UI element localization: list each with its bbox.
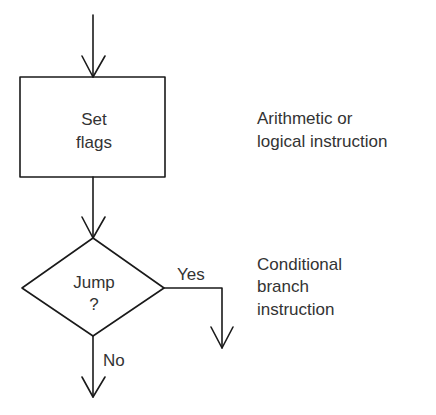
annotation-conditional-line1: Conditional <box>257 255 342 274</box>
annotation-arithmetic-line1: Arithmetic or <box>257 109 353 128</box>
yes-branch-line <box>164 288 222 348</box>
annotation-arithmetic-line2: logical instruction <box>257 132 387 151</box>
set-flags-label-line1: Set <box>81 110 107 129</box>
jump-label-line2: ? <box>89 295 98 314</box>
annotation-conditional-line3: instruction <box>257 300 334 319</box>
set-flags-label-line2: flags <box>76 133 112 152</box>
no-edge-label: No <box>103 351 125 370</box>
annotation-conditional-line2: branch <box>257 277 309 296</box>
yes-edge-label: Yes <box>177 265 205 284</box>
flowchart-canvas: Set flags Jump ? Yes No Arithmetic or lo… <box>0 0 436 415</box>
jump-label-line1: Jump <box>73 273 115 292</box>
